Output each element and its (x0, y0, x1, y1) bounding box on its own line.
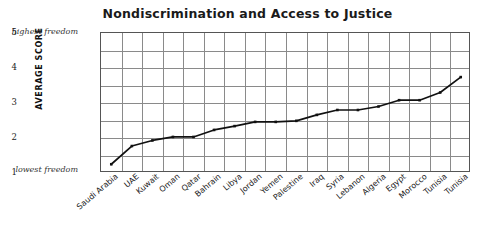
data-point (316, 114, 319, 117)
data-point (131, 145, 134, 148)
chart-title: Nondiscrimination and Access to Justice (0, 6, 495, 21)
data-point (295, 120, 298, 123)
plot-area (100, 32, 470, 172)
y-tick-3: 3 (3, 97, 17, 107)
data-point (336, 109, 339, 112)
data-point (213, 129, 216, 132)
data-point (377, 105, 380, 108)
data-point (357, 109, 360, 112)
data-point (254, 121, 257, 124)
data-point (172, 136, 175, 139)
data-point (398, 99, 401, 102)
y-tick-5: 5 (3, 27, 17, 37)
data-point (439, 91, 442, 94)
y-axis-title: AVERAGE SCORE (35, 24, 44, 114)
data-point (459, 76, 462, 79)
data-point (110, 163, 113, 166)
data-point (418, 99, 421, 102)
y-tick-2: 2 (3, 132, 17, 142)
data-point (192, 136, 195, 139)
x-axis-tick-labels: Saudi ArabiaUAEKuwaitOmanQatarBahrainLib… (0, 172, 495, 235)
data-point (233, 125, 236, 128)
data-point (274, 121, 277, 124)
data-point (151, 139, 154, 142)
series-line (111, 77, 460, 164)
y-tick-4: 4 (3, 62, 17, 72)
data-series-group (101, 33, 471, 173)
chart-container: Nondiscrimination and Access to Justice … (0, 0, 495, 235)
